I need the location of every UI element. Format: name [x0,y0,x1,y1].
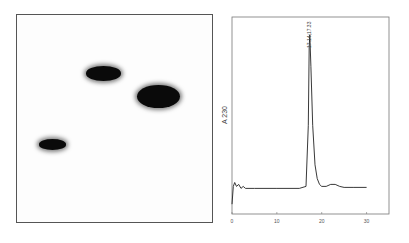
x-tick-label: 30 [364,218,370,224]
chromatogram-trace [232,35,367,205]
y-axis-label: A 230 [221,106,228,124]
x-tick-label: 20 [319,218,325,224]
chromatogram-chart: 0102030 A 230 17.14;17.33 [0,0,409,243]
x-tick-label: 10 [274,218,280,224]
peak-annotation: 17.14;17.33 [306,21,312,48]
x-tick-label: 0 [231,218,234,224]
